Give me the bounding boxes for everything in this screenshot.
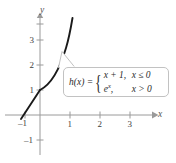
- piecewise-function-figure: y x –1 1 2 3 –1 1 2 3 h(x) = { x + 1, x …: [0, 0, 176, 163]
- piecewise-formula: h(x) = { x + 1, x ≤ 0 ex, x > 0: [69, 70, 152, 94]
- case-expression: ex,: [104, 82, 132, 95]
- formula-function-name: h(x) =: [69, 77, 93, 88]
- x-axis-label: x: [158, 110, 162, 120]
- y-tick-label-2: 2: [26, 61, 34, 70]
- callout-pointer: [59, 52, 76, 68]
- case-condition: x > 0: [132, 84, 152, 95]
- left-brace-icon: {: [95, 72, 102, 93]
- y-tick-label-3: 3: [26, 36, 34, 45]
- x-tick-label-3: 3: [128, 120, 133, 129]
- x-tick-label-2: 2: [98, 120, 103, 129]
- y-axis-label: y: [40, 6, 44, 16]
- case-expression: x + 1,: [104, 70, 132, 81]
- formula-cases: x + 1, x ≤ 0 ex, x > 0: [104, 70, 152, 94]
- y-tick-label-1: 1: [26, 86, 34, 95]
- case-expression-comma: ,: [111, 84, 113, 94]
- x-tick-label-1: 1: [68, 120, 73, 129]
- y-tick-label-minus1: –1: [22, 136, 33, 145]
- case-condition: x ≤ 0: [132, 70, 151, 81]
- x-tick-label-minus1: –1: [18, 119, 27, 128]
- formula-callout-box: h(x) = { x + 1, x ≤ 0 ex, x > 0: [63, 67, 169, 97]
- formula-case-row: x + 1, x ≤ 0: [104, 70, 152, 82]
- formula-case-row: ex, x > 0: [104, 82, 152, 94]
